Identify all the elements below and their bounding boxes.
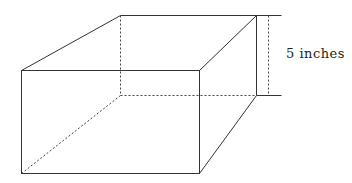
bottom-right-edge xyxy=(200,96,257,174)
front-face xyxy=(22,71,200,174)
top-left-edge xyxy=(22,16,121,71)
height-label: 5 inches xyxy=(286,46,345,61)
hidden-bottom-left-edge xyxy=(22,96,121,174)
prism-diagram xyxy=(0,0,352,183)
top-right-edge xyxy=(200,16,257,71)
